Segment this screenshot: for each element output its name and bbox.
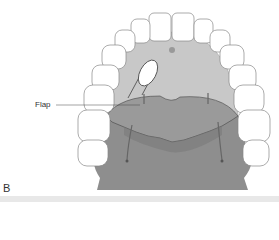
panel-label: B [3, 182, 10, 194]
incisive-papilla [169, 47, 175, 53]
flap-label: Flap [35, 100, 51, 109]
bottom-strip [0, 196, 279, 202]
